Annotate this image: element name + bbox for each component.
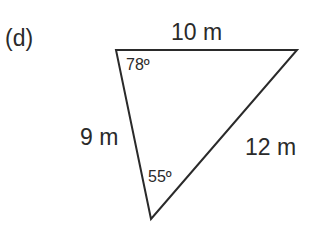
part-label: (d) bbox=[5, 27, 33, 50]
angle-top-left: 78º bbox=[126, 57, 150, 73]
side-top-length: 10 m bbox=[171, 21, 222, 44]
triangle-diagram bbox=[0, 0, 318, 235]
angle-bottom: 55º bbox=[148, 169, 172, 185]
side-left-length: 9 m bbox=[80, 126, 118, 149]
triangle-shape bbox=[0, 0, 318, 235]
side-right-length: 12 m bbox=[245, 136, 296, 159]
